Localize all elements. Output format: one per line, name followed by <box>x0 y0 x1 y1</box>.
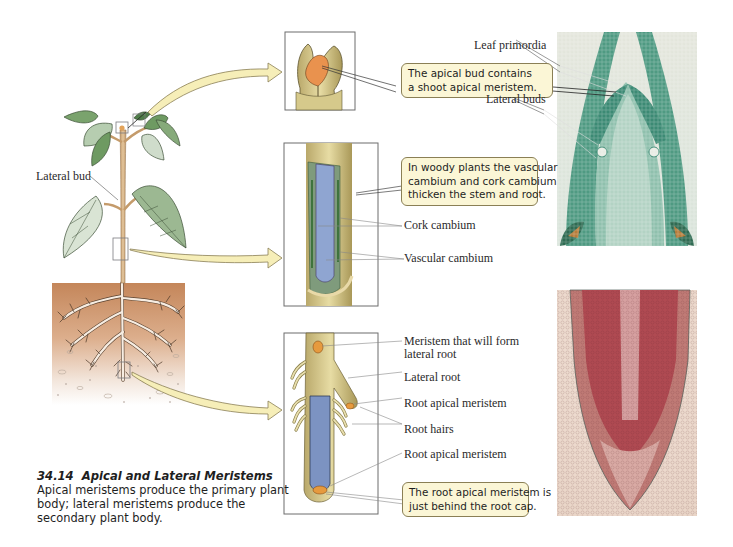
stem-section-marker <box>113 238 128 260</box>
plant-illustration <box>0 0 733 547</box>
lateral-bud-leader <box>90 176 118 200</box>
arrow-to-stem <box>130 248 282 268</box>
label-lateral-bud: Lateral bud <box>36 170 91 183</box>
figure-description: Apical meristems produce the primary pla… <box>37 483 307 525</box>
label-lateral-buds: Lateral buds <box>486 93 546 106</box>
label-root-apical-meristem-main: Root apical meristem <box>404 448 507 461</box>
callout-root-cap: The root apical meristem is just behind … <box>402 482 529 517</box>
apical-bud-detail <box>285 32 355 110</box>
callout-line: In woody plants the vascular <box>408 161 531 175</box>
figure-title: 34.14 Apical and Lateral Meristems <box>37 469 307 483</box>
label-cork-cambium: Cork cambium <box>404 219 476 232</box>
label-lateral-root: Lateral root <box>404 371 460 384</box>
label-vascular-cambium: Vascular cambium <box>404 252 493 265</box>
label-root-apical-meristem-lateral: Root apical meristem <box>404 397 507 410</box>
label-root-hairs: Root hairs <box>404 423 454 436</box>
callout-line: cambium and cork cambium <box>408 175 531 189</box>
shoot-tip-micrograph <box>544 32 697 246</box>
label-line: lateral root <box>404 348 519 361</box>
figure-caption: 34.14 Apical and Lateral Meristems Apica… <box>37 469 307 525</box>
figure-title-text: Apical and Lateral Meristems <box>82 469 273 483</box>
arrow-to-shoot <box>148 63 282 116</box>
label-meristem-lateral-root: Meristem that will form lateral root <box>404 335 519 361</box>
callout-line: just behind the root cap. <box>409 500 522 514</box>
stem-cambium-detail <box>284 143 404 306</box>
root-tip-micrograph <box>557 290 697 516</box>
figure-number: 34.14 <box>37 469 74 483</box>
callout-woody-plants: In woody plants the vascular cambium and… <box>401 157 538 206</box>
callout-line: thicken the stem and root. <box>408 188 531 202</box>
callout-line: The apical bud contains <box>408 67 546 81</box>
callout-line: The root apical meristem is <box>409 486 522 500</box>
label-leaf-primordia: Leaf primordia <box>474 39 546 52</box>
